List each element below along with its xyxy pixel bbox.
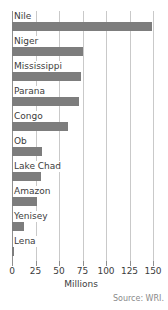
bar[interactable] (12, 47, 83, 56)
bar-category-label: Parana (14, 86, 47, 97)
bar-row[interactable]: Congo (12, 111, 153, 136)
x-axis-tick-label: 75 (77, 266, 88, 277)
bar-row[interactable]: Niger (12, 36, 153, 61)
bar-row[interactable]: Nile (12, 11, 153, 36)
x-axis-tick-label: 0 (9, 266, 15, 277)
x-axis-tick-labels: 0255075100125150 (0, 266, 168, 278)
bar-rows: NileNigerMississippiParanaCongoObLake Ch… (12, 11, 153, 261)
bar[interactable] (12, 22, 152, 31)
bar-row[interactable]: Mississippi (12, 61, 153, 86)
bar-chart: Longest Rivers NileNigerMississippiParan… (0, 0, 168, 310)
bar-category-label: Niger (14, 36, 40, 47)
bar-category-label: Ob (14, 136, 29, 147)
source-note: Source: WRI. (113, 294, 164, 303)
bar-row[interactable]: Parana (12, 86, 153, 111)
x-axis-tick-label: 150 (144, 266, 161, 277)
bar-category-label: Nile (14, 11, 33, 22)
bar-category-label: Yenisey (14, 211, 50, 222)
bar-row[interactable]: Lena (12, 236, 153, 261)
bar[interactable] (12, 97, 79, 106)
bar[interactable] (12, 122, 68, 131)
bar-category-label: Amazon (14, 186, 52, 197)
bar-row[interactable]: Yenisey (12, 211, 153, 236)
bar-row[interactable]: Amazon (12, 186, 153, 211)
bar-category-label: Congo (14, 111, 45, 122)
x-axis-tick-label: 25 (30, 266, 41, 277)
bar[interactable] (12, 197, 37, 206)
x-axis-tick-label: 100 (97, 266, 114, 277)
bar[interactable] (12, 172, 41, 181)
bar-category-label: Mississippi (14, 61, 64, 72)
x-axis-tick-label: 125 (121, 266, 138, 277)
bar-row[interactable]: Lake Chad (12, 161, 153, 186)
bar[interactable] (12, 247, 14, 256)
bar-category-label: Lena (14, 236, 38, 247)
x-axis-title: Millions (0, 279, 168, 289)
gridline (153, 11, 154, 261)
bar-category-label: Lake Chad (14, 161, 63, 172)
x-axis-tick-label: 50 (53, 266, 64, 277)
bar[interactable] (12, 72, 81, 81)
bar-row[interactable]: Ob (12, 136, 153, 161)
plot-area: NileNigerMississippiParanaCongoObLake Ch… (12, 11, 153, 261)
bar[interactable] (12, 222, 24, 231)
bar[interactable] (12, 147, 42, 156)
